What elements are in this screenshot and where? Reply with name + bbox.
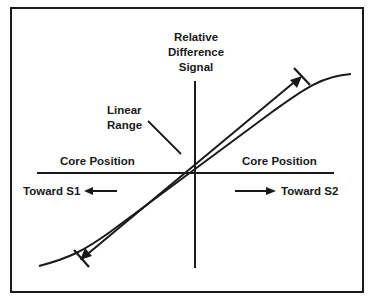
arrow-left-icon	[84, 187, 93, 195]
y-axis-label-line-1: Relative	[158, 30, 234, 45]
x-axis-label-right: Core Position	[242, 154, 317, 169]
toward-s2-label: Toward S2	[281, 184, 338, 199]
linear-range-label-line-2: Range	[107, 118, 142, 133]
linear-range-label: Linear Range	[107, 103, 142, 133]
arrow-right-icon	[266, 187, 276, 195]
toward-s1-label: Toward S1	[23, 184, 80, 199]
y-axis-label: Relative Difference Signal	[158, 30, 234, 75]
y-axis-label-line-2: Difference	[158, 45, 234, 60]
y-axis-label-line-3: Signal	[158, 60, 234, 75]
diagram-frame: Relative Difference Signal Linear Range …	[0, 0, 368, 302]
annotation-leader-line	[148, 121, 181, 154]
linear-range-label-line-1: Linear	[107, 103, 142, 118]
arrowhead-up-icon	[290, 76, 302, 88]
x-axis-label-left: Core Position	[60, 154, 135, 169]
